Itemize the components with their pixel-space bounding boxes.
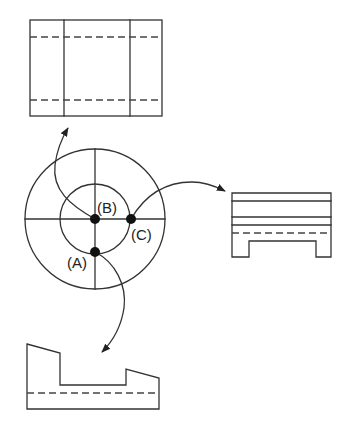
arrow-b-to-top-view <box>55 128 95 219</box>
viewpoint-dot-a <box>90 247 100 257</box>
label-b: (B) <box>97 199 117 216</box>
label-c: (C) <box>131 226 152 243</box>
label-a: (A) <box>67 254 87 271</box>
viewpoint-dot-c <box>126 214 136 224</box>
right-view <box>232 193 331 257</box>
projection-diagram: (B) (C) (A) <box>0 0 351 432</box>
top-view <box>30 20 162 116</box>
arrow-a-to-front-view <box>95 252 124 352</box>
front-view <box>27 344 159 409</box>
front-view-outline <box>27 344 159 409</box>
arrow-c-to-right-view <box>131 182 225 219</box>
top-view-outline <box>30 20 162 116</box>
